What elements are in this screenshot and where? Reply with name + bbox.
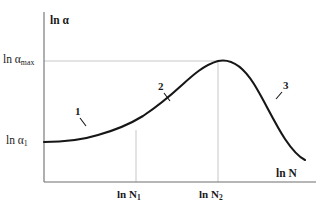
annotation-segment-3: 3 (283, 80, 289, 91)
x-axis-title: ln N (276, 168, 297, 180)
y-tick-alpha-max-text: ln α (3, 53, 21, 65)
alpha-vs-n-curve (44, 60, 305, 160)
x-tick-n1-text: ln N (117, 188, 137, 200)
x-tick-n2-subscript: 2 (219, 193, 223, 202)
chart-canvas (0, 0, 322, 216)
y-tick-alpha-1-subscript: 1 (24, 139, 28, 148)
x-tick-label-n2: ln N2 (199, 189, 223, 200)
x-tick-n1-subscript: 1 (137, 193, 141, 202)
y-tick-alpha-1-text: ln α (6, 134, 24, 146)
y-tick-alpha-max-subscript: max (21, 58, 34, 67)
leader-line-3 (276, 92, 282, 99)
y-axis-title: ln α (50, 15, 69, 27)
leader-line-1 (80, 118, 86, 126)
y-tick-label-alpha-1: ln α1 (6, 135, 28, 147)
annotation-segment-2: 2 (158, 81, 164, 92)
figure-container: ln α ln αmax ln α1 ln N1 ln N2 ln N 1 2 … (0, 0, 322, 216)
figure-caption-partial (6, 210, 316, 216)
annotation-segment-1: 1 (75, 106, 81, 117)
y-tick-label-alpha-max: ln αmax (3, 54, 34, 66)
x-tick-label-n1: ln N1 (117, 189, 141, 200)
x-tick-n2-text: ln N (199, 188, 219, 200)
